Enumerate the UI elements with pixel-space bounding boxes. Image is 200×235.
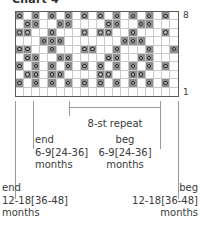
chart-cell-r3-c2	[24, 29, 32, 37]
chart-cell-r3-c11	[97, 29, 105, 37]
chart-cell-r1-c6	[57, 12, 65, 20]
yarn-over-circle-icon	[98, 72, 102, 76]
chart-cell-r10-c9	[81, 88, 89, 96]
row-number-top: 8	[183, 11, 189, 20]
chart-cell-r4-c10	[89, 37, 97, 45]
yarn-over-circle-icon	[50, 30, 54, 34]
chart-cell-r5-c15	[129, 46, 137, 54]
chart-cell-r2-c15	[129, 20, 137, 28]
chart-cell-r9-c19	[162, 79, 170, 87]
chart-cell-r10-c1	[16, 88, 24, 96]
chart-cell-r7-c17	[146, 62, 154, 70]
chart-cell-r1-c2	[24, 12, 32, 20]
yarn-over-circle-icon	[139, 22, 143, 26]
chart-cell-r10-c17	[146, 88, 154, 96]
chart-cell-r9-c17	[146, 79, 154, 87]
yarn-over-circle-icon	[17, 64, 21, 68]
yarn-over-circle-icon	[172, 47, 176, 51]
chart-cell-r5-c16	[138, 46, 146, 54]
yarn-over-circle-icon	[163, 64, 167, 68]
yarn-over-circle-icon	[106, 56, 110, 60]
yarn-over-circle-icon	[58, 72, 62, 76]
chart-cell-r5-c17	[146, 46, 154, 54]
yarn-over-circle-icon	[139, 56, 143, 60]
chart-cell-r2-c1	[16, 20, 24, 28]
chart-cell-r2-c4	[40, 20, 48, 28]
chart-cell-r2-c11	[97, 20, 105, 28]
chart-cell-r9-c8	[73, 79, 81, 87]
chart-cell-r6-c7	[65, 54, 73, 62]
yarn-over-circle-icon	[131, 81, 135, 85]
chart-cell-r6-c9	[81, 54, 89, 62]
stitch-chart-cells	[16, 12, 178, 96]
chart-cell-r5-c11	[97, 46, 105, 54]
chart-cell-r4-c11	[97, 37, 105, 45]
annotation-inner-right: beg 6-9[24-36] months	[90, 134, 160, 172]
yarn-over-circle-icon	[17, 81, 21, 85]
yarn-over-circle-icon	[131, 72, 135, 76]
chart-cell-r9-c9	[81, 79, 89, 87]
chart-cell-r5-c3	[32, 46, 40, 54]
chart-cell-r9-c14	[121, 79, 129, 87]
chart-cell-r3-c5	[48, 29, 56, 37]
yarn-over-circle-icon	[106, 30, 110, 34]
chart-cell-r7-c1	[16, 62, 24, 70]
chart-cell-r3-c20	[170, 29, 178, 37]
yarn-over-circle-icon	[50, 72, 54, 76]
chart-cell-r3-c9	[81, 29, 89, 37]
chart-cell-r8-c7	[65, 71, 73, 79]
chart-cell-r7-c18	[154, 62, 162, 70]
chart-cell-r8-c4	[40, 71, 48, 79]
chart-cell-r7-c6	[57, 62, 65, 70]
chart-cell-r10-c11	[97, 88, 105, 96]
chart-cell-r3-c7	[65, 29, 73, 37]
chart-cell-r9-c11	[97, 79, 105, 87]
yarn-over-circle-icon	[34, 22, 38, 26]
chart-cell-r5-c1	[16, 46, 24, 54]
yarn-over-circle-icon	[42, 39, 46, 43]
chart-cell-r5-c2	[24, 46, 32, 54]
chart-cell-r1-c11	[97, 12, 105, 20]
chart-cell-r4-c16	[138, 37, 146, 45]
chart-cell-r9-c3	[32, 79, 40, 87]
chart-cell-r8-c6	[57, 71, 65, 79]
annotation-inner-left: end 6-9[24-36] months	[35, 134, 88, 172]
chart-cell-r7-c2	[24, 62, 32, 70]
chart-cell-r4-c12	[105, 37, 113, 45]
yarn-over-circle-icon	[17, 14, 21, 18]
chart-cell-r7-c3	[32, 62, 40, 70]
chart-cell-r10-c6	[57, 88, 65, 96]
chart-cell-r2-c16	[138, 20, 146, 28]
yarn-over-circle-icon	[34, 81, 38, 85]
chart-cell-r3-c6	[57, 29, 65, 37]
chart-cell-r1-c18	[154, 12, 162, 20]
yarn-over-circle-icon	[147, 56, 151, 60]
chart-cell-r7-c16	[138, 62, 146, 70]
yarn-over-circle-icon	[82, 47, 86, 51]
chart-cell-r4-c4	[40, 37, 48, 45]
yarn-over-circle-icon	[82, 64, 86, 68]
chart-cell-r5-c13	[113, 46, 121, 54]
chart-cell-r8-c2	[24, 71, 32, 79]
chart-cell-r3-c17	[146, 29, 154, 37]
chart-cell-r8-c15	[129, 71, 137, 79]
chart-cell-r6-c14	[121, 54, 129, 62]
chart-cell-r9-c4	[40, 79, 48, 87]
chart-cell-r10-c2	[24, 88, 32, 96]
chart-cell-r1-c9	[81, 12, 89, 20]
chart-cell-r10-c19	[162, 88, 170, 96]
yarn-over-circle-icon	[66, 14, 70, 18]
yarn-over-circle-icon	[34, 72, 38, 76]
yarn-over-circle-icon	[147, 81, 151, 85]
yarn-over-circle-icon	[147, 64, 151, 68]
annotation-outer-left-line2: 12-18[36-48]	[2, 195, 68, 208]
chart-cell-r1-c5	[48, 12, 56, 20]
chart-cell-r9-c10	[89, 79, 97, 87]
yarn-over-circle-icon	[90, 47, 94, 51]
chart-cell-r4-c5	[48, 37, 56, 45]
chart-cell-r7-c14	[121, 62, 129, 70]
chart-cell-r10-c16	[138, 88, 146, 96]
chart-cell-r6-c1	[16, 54, 24, 62]
chart-cell-r2-c2	[24, 20, 32, 28]
chart-cell-r4-c8	[73, 37, 81, 45]
